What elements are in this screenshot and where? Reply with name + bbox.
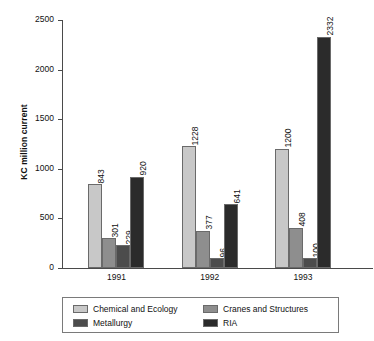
legend-label: Cranes and Structures xyxy=(223,304,308,314)
bar: 843 xyxy=(88,184,102,268)
y-axis-title: KC million current xyxy=(19,72,29,212)
legend-label: Metallurgy xyxy=(93,318,132,328)
plot-area: 84330122992012283779664112004081002332 xyxy=(62,20,373,268)
legend: Chemical and EcologyCranes and Structure… xyxy=(62,297,339,333)
bar-value-label: 1228 xyxy=(191,126,200,145)
bar-chart: KC million current 05001000150020002500 … xyxy=(0,0,374,341)
bar-value-label: 2332 xyxy=(326,17,335,36)
bar-group: 122837796641 xyxy=(182,20,238,268)
legend-swatch xyxy=(203,319,218,327)
legend-label: Chemical and Ecology xyxy=(93,304,178,314)
bar-value-label: 377 xyxy=(205,215,214,229)
bar: 100 xyxy=(303,258,317,268)
x-axis-tick-label: 1993 xyxy=(273,272,333,282)
legend-label: RIA xyxy=(223,318,237,328)
legend-entry: Metallurgy xyxy=(73,318,203,328)
bar-value-label: 1200 xyxy=(284,129,293,148)
bar: 641 xyxy=(224,204,238,268)
y-axis-tick-label: 2500 xyxy=(20,15,54,24)
legend-swatch xyxy=(203,305,218,313)
y-axis-tick-label: 2000 xyxy=(20,65,54,74)
legend-swatch xyxy=(73,319,88,327)
x-axis-tick-label: 1992 xyxy=(180,272,240,282)
bar: 2332 xyxy=(317,37,331,268)
bar: 229 xyxy=(116,245,130,268)
legend-entry: RIA xyxy=(203,318,335,328)
y-axis-tick-label: 1500 xyxy=(20,114,54,123)
y-axis-tick-label: 0 xyxy=(20,263,54,272)
legend-entry: Chemical and Ecology xyxy=(73,304,203,314)
y-axis-tick-label: 500 xyxy=(20,213,54,222)
bar: 1228 xyxy=(182,146,196,268)
bar: 301 xyxy=(102,238,116,268)
legend-entry: Cranes and Structures xyxy=(203,304,335,314)
bar: 1200 xyxy=(275,149,289,268)
bar-value-label: 641 xyxy=(233,189,242,203)
bar: 920 xyxy=(130,177,144,268)
bar-group: 12004081002332 xyxy=(275,20,331,268)
bar-value-label: 301 xyxy=(111,223,120,237)
bar: 96 xyxy=(210,258,224,268)
bar-value-label: 843 xyxy=(97,169,106,183)
bar: 408 xyxy=(289,228,303,268)
x-axis-tick-label: 1991 xyxy=(86,272,146,282)
bar-value-label: 920 xyxy=(139,162,148,176)
bar-value-label: 408 xyxy=(298,212,307,226)
y-axis-tick-label: 1000 xyxy=(20,164,54,173)
bar: 377 xyxy=(196,231,210,268)
bar-group: 843301229920 xyxy=(88,20,144,268)
legend-swatch xyxy=(73,305,88,313)
x-axis-line xyxy=(62,268,373,269)
